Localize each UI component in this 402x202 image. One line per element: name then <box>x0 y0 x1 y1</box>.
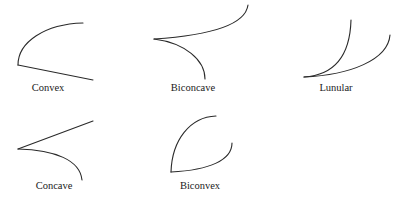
biconcave-lower-curve <box>154 39 205 79</box>
lunular-outer-curve <box>304 35 390 77</box>
concave-curve <box>18 149 82 180</box>
lunular-shape <box>304 20 390 77</box>
biconvex-shape <box>171 116 232 172</box>
biconcave-upper-curve <box>154 5 248 39</box>
lunular-inner-curve <box>304 20 351 77</box>
convex-curve <box>18 23 83 65</box>
concave-line <box>18 121 93 149</box>
concave-shape <box>18 121 93 180</box>
biconvex-upper-curve <box>171 116 216 172</box>
lunular-label: Lunular <box>319 83 352 94</box>
biconvex-label: Biconvex <box>180 181 220 192</box>
biconvex-right-curve <box>171 143 232 172</box>
convex-shape <box>18 23 93 80</box>
leaf-shape-diagram: Convex Biconcave Lunular Concave Biconve… <box>0 0 402 202</box>
biconcave-label: Biconcave <box>171 83 215 94</box>
biconcave-shape <box>154 5 248 79</box>
convex-label: Convex <box>32 83 65 94</box>
concave-label: Concave <box>36 181 73 192</box>
convex-line <box>18 65 93 80</box>
shape-drawings <box>0 0 402 202</box>
